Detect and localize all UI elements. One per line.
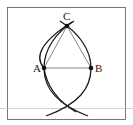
right-arc (46, 21, 91, 116)
diagram-canvas: A B C (0, 0, 133, 125)
label-b: B (95, 62, 102, 74)
point-a (42, 66, 47, 71)
segment-ac (44, 26, 67, 68)
label-a: A (33, 62, 41, 74)
point-c (65, 24, 70, 29)
point-b (89, 66, 94, 71)
left-arc (44, 21, 88, 116)
segment-bc (67, 26, 91, 68)
label-c: C (63, 10, 70, 22)
